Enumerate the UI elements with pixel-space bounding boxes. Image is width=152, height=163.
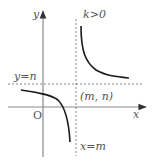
hyperbola-branch-upper-right [81, 26, 129, 78]
center-point-label: (m, n) [80, 90, 113, 103]
hyperbola-diagram: y k>0 y=n (m, n) O x x=m [0, 0, 152, 163]
origin-label: O [33, 109, 42, 122]
vertical-asymptote-label: x=m [80, 140, 106, 153]
condition-label: k>0 [83, 8, 106, 21]
horizontal-asymptote-label: y=n [13, 70, 37, 83]
y-axis-label: y [32, 8, 40, 21]
x-axis-label: x [133, 108, 140, 121]
hyperbola-branch-lower-left [21, 90, 70, 142]
